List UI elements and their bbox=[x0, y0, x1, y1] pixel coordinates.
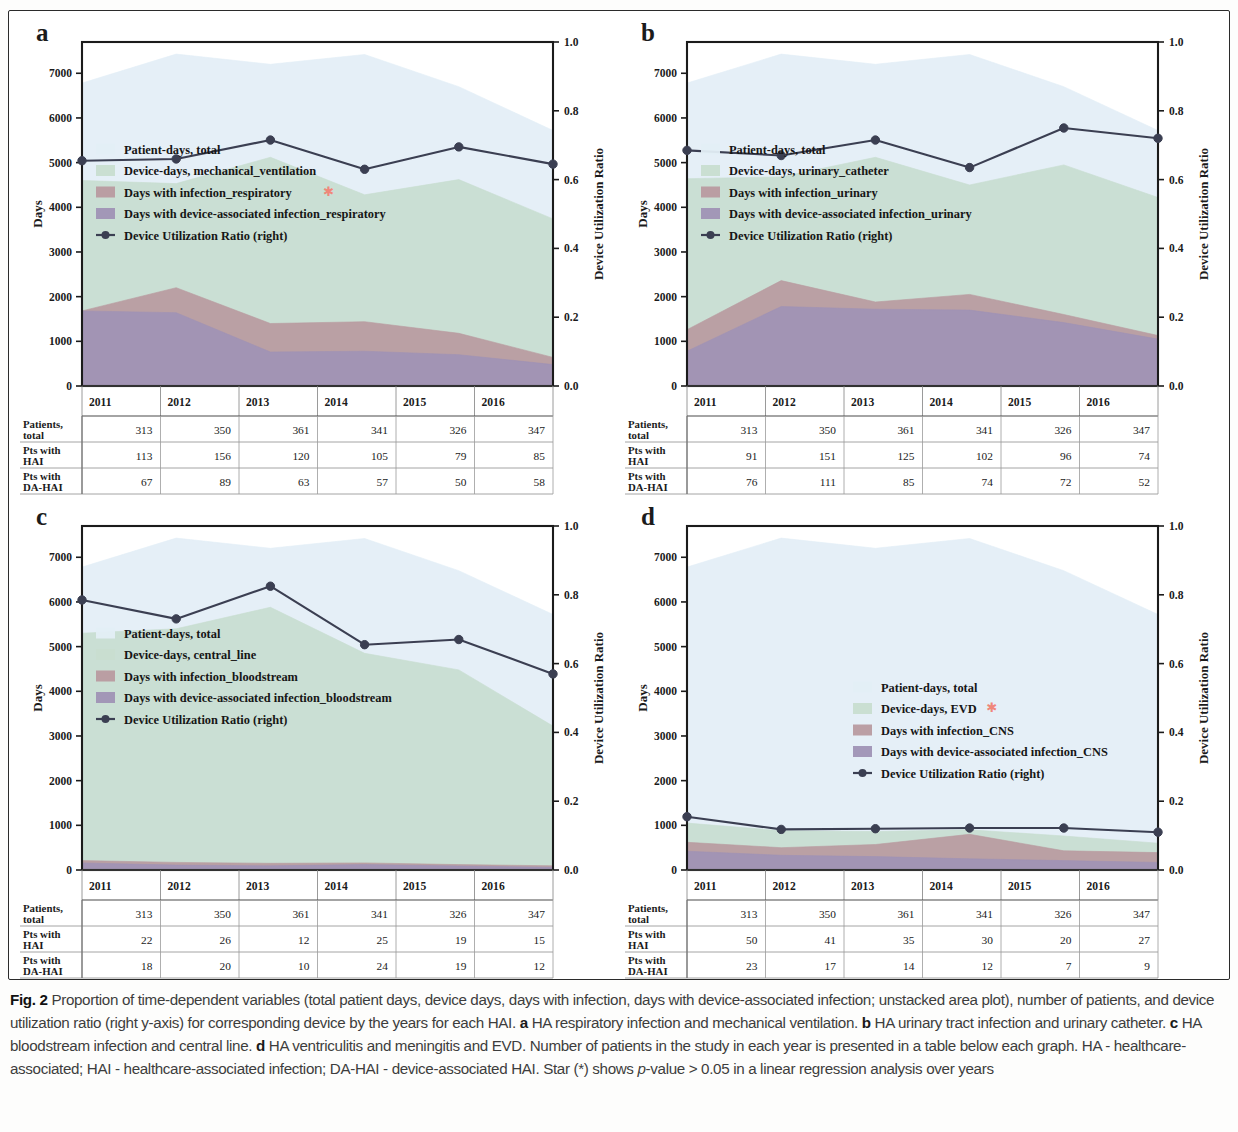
left-tick-label: 6000 bbox=[49, 596, 72, 608]
figure-number: Fig. 2 bbox=[10, 991, 51, 1008]
legend-swatch-da_infection bbox=[96, 208, 115, 219]
legend-swatch-patient_days bbox=[853, 682, 872, 693]
table-year-header: 2016 bbox=[1087, 396, 1110, 409]
table-cell: 19 bbox=[455, 934, 467, 946]
table-year-header: 2012 bbox=[773, 880, 796, 893]
table-row-label: DA-HAI bbox=[628, 481, 668, 493]
left-tick-label: 2000 bbox=[49, 775, 72, 787]
right-tick-label: 1.0 bbox=[564, 520, 579, 532]
left-tick-label: 0 bbox=[671, 864, 677, 876]
dur-marker bbox=[266, 136, 274, 144]
table-cell: 350 bbox=[819, 908, 836, 920]
left-tick-label: 0 bbox=[66, 380, 72, 392]
table-cell: 9 bbox=[1144, 960, 1150, 972]
dur-marker bbox=[1060, 124, 1068, 132]
dur-marker bbox=[549, 160, 557, 168]
table-cell: 35 bbox=[903, 934, 915, 946]
table-cell: 341 bbox=[976, 424, 993, 436]
right-tick-label: 1.0 bbox=[1169, 520, 1184, 532]
table-year-header: 2013 bbox=[851, 396, 874, 409]
table-cell: 326 bbox=[449, 424, 466, 436]
table-cell: 105 bbox=[371, 450, 388, 462]
table-cell: 120 bbox=[292, 450, 309, 462]
table-cell: 41 bbox=[825, 934, 837, 946]
right-tick-label: 0.6 bbox=[1169, 658, 1184, 670]
table-cell: 85 bbox=[903, 476, 915, 488]
right-tick-label: 0.6 bbox=[564, 658, 579, 670]
caption-text: HA respiratory infection and mechanical … bbox=[528, 1014, 862, 1031]
table-cell: 156 bbox=[214, 450, 231, 462]
dur-marker bbox=[1154, 828, 1162, 836]
right-axis-label: Device Utilization Ratio bbox=[1196, 632, 1211, 764]
panel-c: c01000200030004000500060007000Days0.00.2… bbox=[20, 502, 620, 982]
table-cell: 58 bbox=[534, 476, 546, 488]
table-cell: 18 bbox=[141, 960, 153, 972]
table-cell: 347 bbox=[528, 908, 545, 920]
table-cell: 341 bbox=[976, 908, 993, 920]
panel-grid: a01000200030004000500060007000Days0.00.2… bbox=[8, 10, 1230, 982]
table-cell: 341 bbox=[371, 424, 388, 436]
caption-panel-ref: c bbox=[1170, 1014, 1178, 1031]
chart-d: 01000200030004000500060007000Days0.00.20… bbox=[625, 502, 1225, 982]
caption-italic: p bbox=[637, 1060, 645, 1077]
right-tick-label: 0.8 bbox=[564, 105, 579, 117]
dur-marker bbox=[549, 670, 557, 678]
svg-text:✱: ✱ bbox=[987, 700, 998, 715]
table-row-label: DA-HAI bbox=[23, 965, 63, 977]
left-tick-label: 4000 bbox=[49, 201, 72, 213]
right-tick-label: 0.2 bbox=[1169, 311, 1184, 323]
table-year-header: 2015 bbox=[1008, 396, 1031, 409]
table-cell: 341 bbox=[371, 908, 388, 920]
table-cell: 12 bbox=[534, 960, 546, 972]
table-row: Pts withDA-HAI182010241912 bbox=[20, 952, 553, 978]
dur-marker bbox=[455, 143, 463, 151]
legend-label: Days with infection_urinary bbox=[729, 186, 878, 200]
table-cell: 30 bbox=[982, 934, 994, 946]
left-tick-label: 4000 bbox=[654, 201, 677, 213]
left-tick-label: 1000 bbox=[49, 819, 72, 831]
caption-panel-ref: b bbox=[862, 1014, 871, 1031]
left-tick-label: 5000 bbox=[49, 641, 72, 653]
left-tick-label: 7000 bbox=[654, 551, 677, 563]
table-cell: 12 bbox=[982, 960, 994, 972]
left-tick-label: 6000 bbox=[654, 596, 677, 608]
left-tick-label: 6000 bbox=[654, 112, 677, 124]
right-tick-label: 0.2 bbox=[564, 311, 579, 323]
table-row-label: DA-HAI bbox=[628, 965, 668, 977]
table-cell: 313 bbox=[740, 908, 757, 920]
table-cell: 91 bbox=[746, 450, 758, 462]
legend-dur-marker bbox=[859, 769, 867, 777]
table-cell: 89 bbox=[220, 476, 232, 488]
left-tick-label: 0 bbox=[671, 380, 677, 392]
left-tick-label: 5000 bbox=[654, 157, 677, 169]
svg-text:✱: ✱ bbox=[323, 184, 334, 199]
legend-star-icon: ✱ bbox=[987, 700, 998, 715]
table-row: Pts withDA-HAI7611185747252 bbox=[625, 468, 1158, 494]
table-cell: 361 bbox=[897, 424, 914, 436]
table-cell: 74 bbox=[982, 476, 994, 488]
table-cell: 74 bbox=[1139, 450, 1151, 462]
table-row: Patients,total313350361341326347 bbox=[625, 416, 1158, 442]
dur-marker bbox=[360, 640, 368, 648]
left-tick-label: 3000 bbox=[654, 246, 677, 258]
table-cell: 347 bbox=[1133, 424, 1150, 436]
legend-swatch-device_days bbox=[701, 165, 720, 176]
dur-marker bbox=[965, 163, 973, 171]
dur-marker bbox=[455, 635, 463, 643]
legend-label: Device Utilization Ratio (right) bbox=[881, 767, 1044, 781]
legend-dur-marker bbox=[102, 715, 110, 723]
table-cell: 52 bbox=[1139, 476, 1151, 488]
left-tick-label: 0 bbox=[66, 864, 72, 876]
dur-marker bbox=[683, 146, 691, 154]
legend-swatch-da_infection bbox=[96, 692, 115, 703]
table-cell: 12 bbox=[298, 934, 310, 946]
panel-a: a01000200030004000500060007000Days0.00.2… bbox=[20, 18, 620, 498]
patients-table-d: 201120122013201420152016Patients,total31… bbox=[625, 870, 1158, 978]
table-row: Pts withHAI✱504135302027 bbox=[625, 926, 1158, 952]
table-row: Pts withHAI1131561201057985 bbox=[20, 442, 553, 468]
table-year-header: 2015 bbox=[403, 396, 426, 409]
table-year-header: 2013 bbox=[851, 880, 874, 893]
table-cell: 85 bbox=[534, 450, 546, 462]
legend-label: Days with infection_respiratory bbox=[124, 186, 293, 200]
legend-swatch-infection bbox=[853, 725, 872, 736]
